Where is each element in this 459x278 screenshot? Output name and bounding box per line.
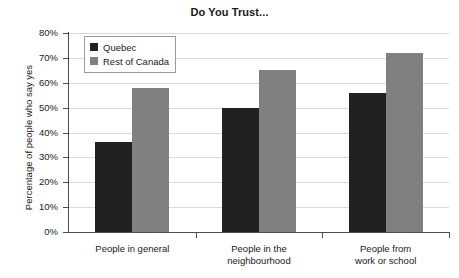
bar-chart: Do You Trust... Percentage of people who… bbox=[0, 0, 459, 278]
bar bbox=[132, 88, 169, 232]
y-axis-tick-label: 40% bbox=[14, 127, 58, 138]
legend: Quebec Rest of Canada bbox=[84, 36, 176, 73]
legend-item: Quebec bbox=[90, 40, 169, 54]
x-axis-category-label: People in general bbox=[69, 243, 196, 255]
y-axis-tick-label: 0% bbox=[14, 226, 58, 237]
gridline bbox=[69, 33, 449, 34]
chart-title: Do You Trust... bbox=[0, 6, 459, 18]
y-axis-tick-label: 30% bbox=[14, 151, 58, 162]
y-axis-tick-label: 60% bbox=[14, 77, 58, 88]
y-axis-tick-label: 70% bbox=[14, 52, 58, 63]
bar bbox=[349, 93, 386, 232]
y-axis-tick bbox=[63, 232, 69, 233]
legend-item: Rest of Canada bbox=[90, 54, 169, 68]
y-axis-tick-label: 10% bbox=[14, 201, 58, 212]
legend-label-rest-of-canada: Rest of Canada bbox=[103, 56, 169, 67]
bar bbox=[222, 108, 259, 232]
x-axis-tick bbox=[322, 232, 323, 238]
bar bbox=[259, 70, 296, 232]
x-axis-category-label: People fromwork or school bbox=[322, 243, 449, 266]
y-axis-tick-label: 80% bbox=[14, 27, 58, 38]
legend-swatch-rest-of-canada bbox=[90, 57, 98, 65]
x-axis-category-label: People in theneighbourhood bbox=[196, 243, 323, 266]
y-axis-tick-label: 50% bbox=[14, 102, 58, 113]
x-axis-tick bbox=[449, 232, 450, 238]
legend-label-quebec: Quebec bbox=[103, 42, 136, 53]
bar bbox=[386, 53, 423, 232]
x-axis-tick bbox=[196, 232, 197, 238]
x-axis-line bbox=[68, 232, 449, 233]
y-axis-tick-label: 20% bbox=[14, 176, 58, 187]
bar bbox=[95, 142, 132, 232]
legend-swatch-quebec bbox=[90, 43, 98, 51]
